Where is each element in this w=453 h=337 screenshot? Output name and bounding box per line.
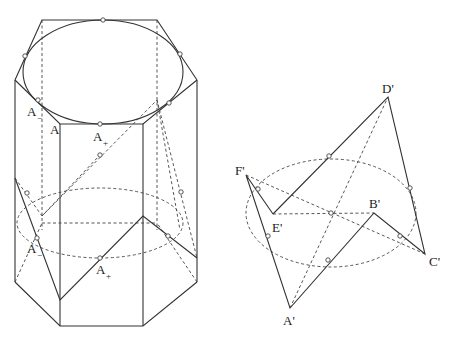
svg-text:A: A bbox=[50, 122, 60, 137]
label-d-prime: D' bbox=[382, 81, 394, 96]
tangent-point bbox=[98, 256, 102, 260]
tangent-point bbox=[25, 191, 29, 195]
svg-text:A: A bbox=[93, 129, 103, 144]
top-ellipse bbox=[23, 20, 183, 124]
label-b-prime: B' bbox=[369, 196, 380, 211]
label-e-prime: E' bbox=[272, 220, 282, 235]
hexagonal-prism-figure: A − A A + A − A + bbox=[15, 18, 197, 326]
tangent-point bbox=[266, 234, 270, 238]
svg-text:+: + bbox=[103, 138, 108, 148]
label-a-plus-top: A + bbox=[93, 129, 108, 148]
diagonal-f-c bbox=[246, 175, 425, 254]
tangent-point bbox=[35, 236, 39, 240]
label-c-prime: C' bbox=[429, 254, 440, 269]
svg-text:A: A bbox=[27, 104, 37, 119]
tangent-point bbox=[327, 154, 331, 158]
hidden-diagonal bbox=[42, 155, 100, 216]
skew-hexagon-figure: D' F' E' B' C' A' bbox=[235, 81, 440, 328]
svg-text:−: − bbox=[37, 250, 42, 260]
tangent-point bbox=[98, 153, 102, 157]
tangent-point bbox=[167, 101, 171, 105]
svg-text:A: A bbox=[27, 241, 37, 256]
tangent-point bbox=[256, 187, 260, 191]
tangent-point bbox=[98, 122, 102, 126]
bottom-hexagon-edge bbox=[15, 282, 197, 326]
label-a-minus-top: A − bbox=[27, 104, 42, 123]
tangent-point bbox=[179, 190, 183, 194]
tangent-point bbox=[398, 234, 402, 238]
label-a-plus-bottom: A + bbox=[96, 262, 111, 281]
label-f-prime: F' bbox=[235, 163, 245, 178]
hidden-diagonal-right bbox=[157, 100, 180, 230]
label-a-vertex: A bbox=[50, 122, 60, 137]
label-a-prime: A' bbox=[283, 313, 295, 328]
tangent-point bbox=[166, 234, 170, 238]
tangent-point bbox=[36, 98, 40, 102]
diagram-canvas: A − A A + A − A + bbox=[0, 0, 453, 337]
tangent-point bbox=[23, 54, 27, 58]
svg-text:+: + bbox=[106, 271, 111, 281]
center-point bbox=[329, 211, 333, 215]
svg-text:A: A bbox=[96, 262, 106, 277]
skew-hexagon-solid bbox=[246, 97, 425, 308]
tangent-point bbox=[326, 258, 330, 262]
tangent-point bbox=[408, 186, 412, 190]
diagonal-e-b bbox=[273, 213, 374, 214]
tangent-point bbox=[178, 52, 182, 56]
tangent-point bbox=[101, 18, 105, 22]
svg-text:−: − bbox=[37, 113, 42, 123]
